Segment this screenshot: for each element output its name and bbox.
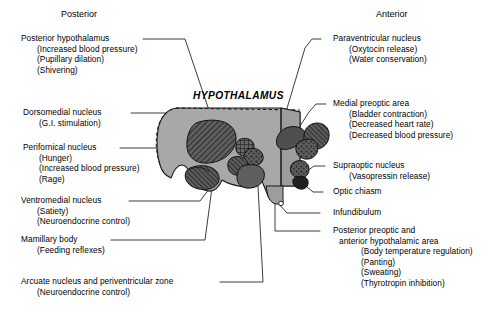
label-sub: (Increased blood pressure) [21,44,137,55]
label-sub: (Feeding reflexes) [21,245,105,256]
infundibulum-knob [279,201,284,206]
label-sub: (Oxytocin release) [333,44,427,55]
nucleus-arcuate [237,165,264,189]
label-medial-preoptic-area: Medial preoptic area (Bladder contractio… [333,98,453,140]
leader-infundibulum [278,203,320,213]
label-main-cont: anterior hypothalamic area [333,236,473,247]
label-sub: (Decreased heart rate) [333,119,453,130]
label-optic-chiasm: Optic chiasm [333,186,382,197]
label-perifornical-nucleus: Perifornical nucleus (Hunger) (Increased… [23,142,139,184]
label-main: Paraventricular nucleus [333,33,427,44]
label-sub: (Shivering) [21,65,137,76]
label-paraventricular-nucleus: Paraventricular nucleus (Oxytocin releas… [333,33,427,65]
label-posterior-preoptic-area: Posterior preoptic and anterior hypothal… [333,225,473,289]
label-sub: (Thyrotropin inhibition) [333,278,473,289]
label-arcuate-nucleus: Arcuate nucleus and periventricular zone… [21,276,173,297]
label-main: Dorsomedial nucleus [23,107,101,118]
label-sub: (Pupillary dilation) [21,54,137,65]
nucleus-medial-preoptic-lower [296,139,318,159]
label-sub: (Panting) [333,257,473,268]
label-ventromedial-nucleus: Ventromedial nucleus (Satiety) (Neuroend… [21,195,130,227]
label-main: Medial preoptic area [333,98,453,109]
label-posterior-hypothalamus: Posterior hypothalamus (Increased blood … [21,33,137,75]
label-sub: (Bladder contraction) [333,109,453,120]
label-sub: (Hunger) [23,153,139,164]
hypothalamus-diagram: Posterior Anterior HYPOTHALAMUS Posterio… [0,0,503,313]
label-sub: (Decreased blood pressure) [333,130,453,141]
label-sub: (Neuroendocrine control) [21,287,173,298]
label-main: Mamillary body [21,234,105,245]
label-main: Posterior hypothalamus [21,33,137,44]
orientation-anterior: Anterior [376,9,408,19]
organ-title: HYPOTHALAMUS [193,90,284,101]
label-sub: (Water conservation) [333,54,427,65]
label-main: Posterior preoptic and [333,225,473,236]
label-mamillary-body: Mamillary body (Feeding reflexes) [21,234,105,255]
label-sub: (Rage) [23,174,139,185]
label-main: Arcuate nucleus and periventricular zone [21,276,173,287]
label-main: Perifornical nucleus [23,142,139,153]
label-sub: (Sweating) [333,267,473,278]
label-sub: (Neuroendocrine control) [21,216,130,227]
hypothalamus-body [156,108,300,206]
leader-arcuate-nucleus [220,186,263,282]
label-sub: (G.I. stimulation) [23,118,101,129]
label-infundibulum: Infundibulum [333,207,381,218]
label-sub: (Body temperature regulation) [333,246,473,257]
optic-chiasm [293,176,308,189]
label-main: Infundibulum [333,207,381,218]
label-main: Optic chiasm [333,186,382,197]
label-sub: (Satiety) [21,206,130,217]
label-sub: (Vasopressin release) [333,171,430,182]
orientation-posterior: Posterior [61,9,97,19]
label-main: Supraoptic nucleus [333,160,430,171]
label-sub: (Increased blood pressure) [23,163,139,174]
label-dorsomedial-nucleus: Dorsomedial nucleus (G.I. stimulation) [23,107,101,128]
label-supraoptic-nucleus: Supraoptic nucleus (Vasopressin release) [333,160,430,181]
label-main: Ventromedial nucleus [21,195,130,206]
